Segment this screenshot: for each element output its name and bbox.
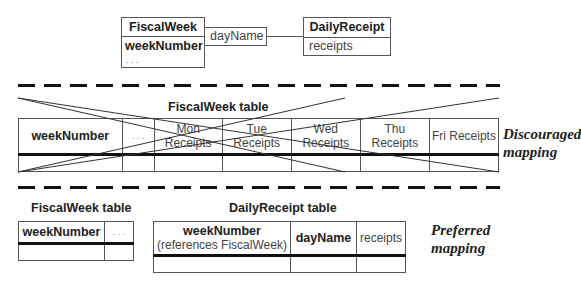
preferred-fiscalweek-table: weekNumber . . . [18,221,134,261]
preferred-label-line2: mapping [431,240,485,257]
empty-cell [154,256,291,273]
col-dayname: dayName [291,222,357,256]
preferred-dailyreceipt-table: weekNumber (references FiscalWeek) dayNa… [153,221,406,273]
preferred-dailyreceipt-title: DailyReceipt table [229,201,337,215]
col-weeknumber-name: weekNumber [154,224,290,238]
preferred-fiscalweek-title: FiscalWeek table [31,201,132,215]
col-weeknumber: weekNumber [19,222,105,244]
empty-cell [105,244,134,261]
discouraged-label-line2: mapping [503,144,557,161]
empty-cell [291,256,357,273]
empty-cell [357,256,406,273]
col-weeknumber-fk: weekNumber (references FiscalWeek) [154,222,291,256]
preferred-label-line1: Preferred [431,222,490,239]
separator-dashed-bottom [18,186,500,189]
col-receipts: receipts [357,222,406,256]
col-weeknumber-note: (references FiscalWeek) [154,238,290,252]
col-ellipsis: . . . [105,222,134,244]
empty-cell [19,244,105,261]
discouraged-label-line1: Discouraged [503,126,581,143]
